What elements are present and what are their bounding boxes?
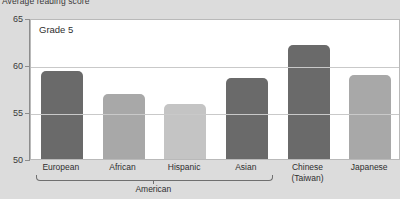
x-axis-label-line1: Hispanic (168, 162, 201, 172)
bar (288, 45, 330, 159)
gridline (31, 114, 399, 115)
reading-score-bar-chart: Average reading score 50556065 Grade 5 E… (0, 0, 400, 199)
x-axis-label: Chinese(Taiwan) (277, 162, 339, 184)
x-axis-label-line1: Japanese (351, 162, 388, 172)
bar (164, 104, 206, 159)
group-bracket (36, 175, 273, 181)
x-axis-label-line1: European (42, 162, 79, 172)
y-axis: 50556065 (0, 0, 30, 180)
group-label: American (36, 184, 271, 194)
x-axis-label: African (92, 162, 154, 173)
x-axis-label-line1: Chinese (292, 162, 323, 172)
x-axis-label-line1: African (109, 162, 135, 172)
gridline (31, 67, 399, 68)
bar (349, 75, 391, 159)
bar (103, 94, 145, 159)
x-axis-label-line1: Asian (235, 162, 256, 172)
bar (226, 78, 268, 159)
bar-series (31, 20, 399, 159)
y-axis-tick-label: 50 (13, 155, 23, 165)
y-axis-tick-label: 60 (13, 61, 23, 71)
x-axis-label-line2: (Taiwan) (277, 173, 339, 184)
x-axis-label: Hispanic (153, 162, 215, 173)
x-axis-label: Asian (215, 162, 277, 173)
plot-area: Grade 5 (30, 19, 400, 160)
x-axis-label: European (30, 162, 92, 173)
x-axis-label: Japanese (338, 162, 400, 173)
y-axis-tick-label: 55 (13, 108, 23, 118)
y-axis-tick-mark (25, 160, 30, 161)
x-axis-labels: EuropeanAfricanHispanicAsianChinese(Taiw… (30, 162, 400, 199)
y-axis-tick-label: 65 (13, 14, 23, 24)
